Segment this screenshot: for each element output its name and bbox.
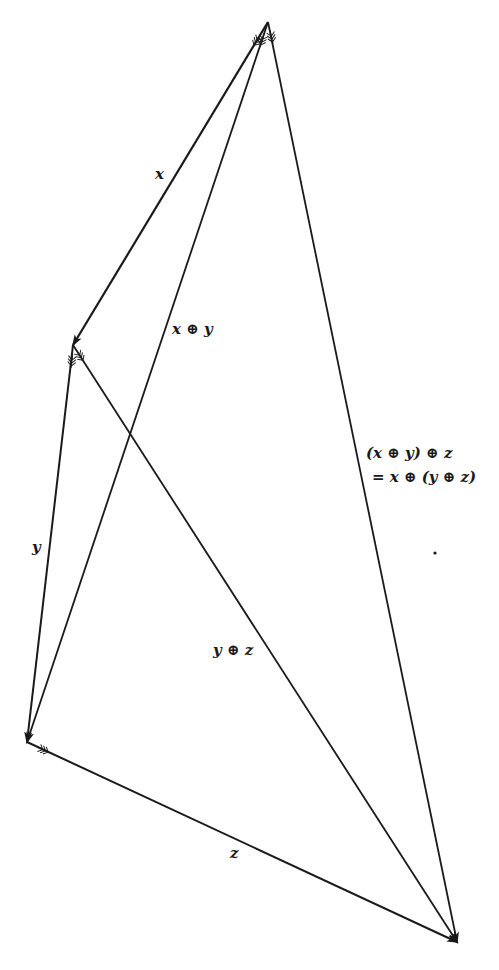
fletch-icon-z [36,743,52,756]
fletch-icon-x-plus-y [256,32,268,48]
label-z: z [230,844,239,862]
label-x: x [155,165,164,183]
diagram-canvas: x x ⊕ y y y ⊕ z z (x ⊕ y) ⊕ z = x ⊕ (y ⊕… [0,0,499,970]
label-y-plus-z: y ⊕ z [213,641,253,659]
label-x-plus-y: x ⊕ y [172,320,213,338]
label-assoc-line1: (x ⊕ y) ⊕ z [366,443,452,463]
label-assoc-line2: = x ⊕ (y ⊕ z) [372,467,476,487]
vector-x-plus-y [27,22,268,742]
stray-dot [433,551,436,554]
vector-x [73,22,268,345]
label-y: y [32,538,41,556]
fletch-icon-y-plus-z [73,348,87,364]
